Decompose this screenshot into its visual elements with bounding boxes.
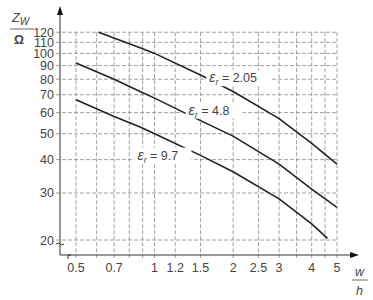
x-tick-label: 2 — [230, 261, 237, 275]
x-tick-label: 1.5 — [192, 261, 209, 275]
y-label-main: Z — [11, 11, 20, 25]
x-tick-label: 5 — [334, 261, 341, 275]
x-tick-label: 0.7 — [105, 261, 122, 275]
x-axis-arrow-icon — [350, 252, 359, 258]
x-tick-label: 2.5 — [250, 261, 267, 275]
y-label-den: Ω — [14, 33, 24, 47]
y-tick-label: 30 — [40, 186, 54, 200]
x-tick-label: 1.2 — [167, 261, 184, 275]
y-axis-break-icon — [56, 243, 64, 245]
curve-label: εr = 4.8 — [189, 102, 230, 120]
x-tick-label: 0.5 — [67, 261, 84, 275]
y-tick-labels: 2030405060708090100110120 — [33, 26, 54, 248]
y-tick-label: 60 — [40, 106, 54, 120]
curve-er-0 — [99, 32, 338, 164]
x-axis-break-icon — [68, 255, 71, 259]
y-axis-label: ZW Ω — [10, 11, 34, 47]
y-tick-label: 70 — [40, 88, 54, 102]
impedance-chart: 0.50.711.21.522.5345 2030405060708090100… — [0, 0, 373, 300]
x-axis-label: w h — [352, 265, 368, 298]
curve-label: εr = 9.7 — [137, 147, 178, 165]
y-tick-label: 20 — [40, 234, 54, 248]
curves — [76, 32, 337, 238]
x-tick-label: 3 — [276, 261, 283, 275]
y-axis-arrow-icon — [57, 6, 63, 15]
y-tick-label: 80 — [40, 73, 54, 87]
x-label-den: h — [356, 284, 363, 298]
y-tick-label: 90 — [40, 59, 54, 73]
y-tick-label: 50 — [40, 127, 54, 141]
x-label-num: w — [355, 265, 365, 279]
x-tick-label: 1 — [151, 261, 158, 275]
x-tick-label: 4 — [308, 261, 315, 275]
svg-text:ZW: ZW — [11, 11, 31, 27]
axes — [56, 6, 359, 259]
y-tick-label: 40 — [40, 153, 54, 167]
y-label-sub: W — [20, 16, 31, 27]
x-tick-labels: 0.50.711.21.522.5345 — [67, 261, 340, 275]
y-tick-label: 120 — [33, 26, 54, 40]
grid-lines — [56, 32, 337, 258]
